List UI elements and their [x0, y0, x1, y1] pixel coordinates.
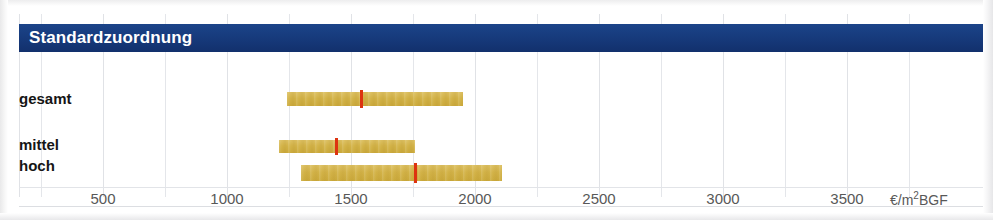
scan-edge-left: [0, 0, 8, 220]
row-label-hoch: hoch: [19, 157, 55, 174]
range-bar-gesamt: [287, 92, 463, 106]
x-tick-label-500: 500: [90, 190, 115, 207]
median-marker-hoch: [414, 163, 417, 183]
x-tick-label-1500: 1500: [334, 190, 367, 207]
range-bar-mittel: [279, 140, 415, 153]
row-label-gesamt: gesamt: [19, 90, 72, 107]
x-axis-unit-label: €/m2BGF: [890, 190, 948, 208]
range-chart: Standardzuordnung gesamt mittel hoch 500…: [19, 14, 983, 207]
x-tick-label-2500: 2500: [582, 190, 615, 207]
row-label-mittel: mittel: [19, 136, 59, 153]
median-marker-gesamt: [360, 90, 363, 108]
section-title: Standardzuordnung: [29, 24, 192, 52]
x-tick-label-3500: 3500: [830, 190, 863, 207]
x-tick-label-3000: 3000: [706, 190, 739, 207]
scan-edge-bottom: [0, 213, 993, 220]
axis-rule-upper: [19, 187, 983, 188]
scan-edge-right: [983, 0, 993, 220]
range-bar-hoch: [301, 165, 502, 181]
x-tick-label-2000: 2000: [458, 190, 491, 207]
scan-edge-top: [0, 0, 993, 6]
page-background: Standardzuordnung gesamt mittel hoch 500…: [0, 0, 993, 220]
median-marker-mittel: [335, 138, 338, 155]
x-tick-label-1000: 1000: [210, 190, 243, 207]
